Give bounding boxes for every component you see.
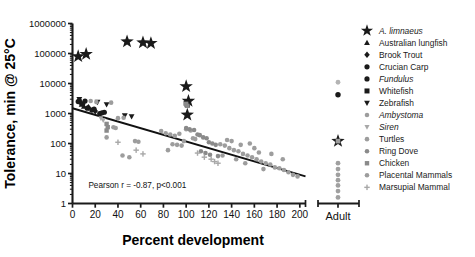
data-point: [121, 115, 126, 120]
series-placental-mammals: [218, 138, 300, 179]
data-point: [220, 153, 225, 158]
data-point: [291, 173, 296, 178]
data-point: [295, 174, 300, 179]
data-point: [120, 153, 125, 158]
figure-container: 1101001000100001000001000000020406080100…: [0, 0, 475, 257]
data-point: [259, 159, 264, 164]
legend-marker-circle-icon: [364, 76, 369, 81]
adult-data-point: [336, 139, 341, 144]
data-point: [91, 107, 96, 112]
data-point: [250, 155, 255, 160]
data-point: [254, 157, 259, 162]
adult-data-point: [336, 80, 341, 85]
data-point: [177, 132, 182, 137]
legend-label: Ring Dove: [379, 146, 418, 156]
data-point: [232, 148, 237, 153]
x-tick-label: 160: [246, 209, 263, 220]
legend-label: Whitefish: [379, 86, 414, 96]
legend-entry[interactable]: Placental Mammals: [365, 170, 452, 180]
legend-marker-star-icon: [361, 24, 373, 36]
x-tick-label: 140: [223, 209, 240, 220]
legend-label: Siren: [379, 122, 399, 132]
data-point: [257, 150, 262, 155]
legend-marker-circle-icon: [365, 137, 370, 142]
data-point: [218, 142, 223, 147]
legend-marker-circle-icon: [365, 113, 370, 118]
data-point: [136, 139, 141, 144]
data-point: [216, 154, 221, 159]
data-point: [94, 100, 99, 105]
y-tick-label: 1: [61, 198, 66, 209]
legend-entry[interactable]: Chicken: [365, 158, 410, 168]
data-point: [229, 139, 234, 144]
data-point: [202, 154, 207, 159]
data-point: [227, 146, 232, 151]
data-point: [85, 106, 90, 111]
legend-entry[interactable]: Fundulus: [364, 74, 414, 84]
legend-entry[interactable]: Siren: [364, 122, 398, 132]
data-point: [213, 143, 218, 148]
x-tick-label: 60: [135, 209, 147, 220]
x-tick-label: 0: [70, 209, 76, 220]
legend-label: Marsupial Mammal: [379, 182, 450, 192]
data-point: [182, 139, 187, 144]
data-point: [236, 149, 241, 154]
data-point: [109, 100, 114, 105]
data-point: [166, 148, 171, 153]
adult-category-label: Adult: [325, 210, 350, 222]
adult-data-point: [336, 178, 341, 183]
data-point: [241, 152, 246, 157]
legend-marker-triangle-down-icon: [364, 125, 369, 130]
legend-entry[interactable]: Ring Dove: [365, 146, 419, 156]
y-tick-label: 100000: [34, 48, 66, 59]
data-point: [163, 131, 168, 136]
data-point: [204, 136, 209, 141]
legend-entry[interactable]: Ambystoma: [365, 110, 424, 120]
legend-marker-diamond-icon: [364, 52, 370, 59]
data-point: [225, 138, 230, 143]
data-point: [129, 114, 135, 119]
data-point: [175, 143, 180, 148]
data-points-group: [71, 35, 299, 179]
data-point: [173, 134, 178, 139]
data-point: [104, 102, 110, 107]
legend-entry[interactable]: Zebrafish: [364, 98, 414, 108]
adult-data-point: [335, 92, 340, 97]
legend-label: Placental Mammals: [379, 170, 452, 180]
data-point: [282, 168, 287, 173]
legend-marker-triangle-down-icon: [364, 101, 370, 106]
data-point: [127, 155, 132, 160]
legend-entry[interactable]: Australian lungfish: [364, 38, 448, 48]
data-point: [245, 153, 250, 158]
legend-entry[interactable]: Marsupial Mammal: [364, 182, 450, 192]
data-point: [116, 116, 121, 121]
data-point: [179, 79, 192, 92]
legend: A. limnaeusAustralian lungfishBrook Trou…: [361, 24, 452, 192]
data-point: [168, 132, 173, 137]
legend-label: Crucian Carp: [379, 62, 429, 72]
y-tick-label: 10: [55, 168, 66, 179]
data-point: [159, 129, 164, 134]
legend-entry[interactable]: A. limnaeus: [361, 24, 424, 36]
legend-entry[interactable]: Crucian Carp: [364, 62, 428, 72]
legend-entry[interactable]: Whitefish: [365, 86, 414, 96]
x-tick-label: 100: [178, 209, 195, 220]
data-point: [187, 127, 192, 132]
legend-label: A. limnaeus: [378, 26, 424, 36]
adult-data-point: [336, 172, 341, 177]
data-point: [170, 142, 175, 147]
data-point: [193, 137, 198, 142]
legend-label: Fundulus: [379, 74, 414, 84]
x-axis-title: Percent development: [122, 232, 264, 248]
correlation-annotation: Pearson r = -0.87, p<0.001: [88, 181, 186, 190]
data-point: [208, 153, 213, 158]
adult-data-point: [336, 183, 341, 188]
legend-marker-square-icon: [365, 88, 370, 93]
data-point: [115, 140, 120, 145]
legend-entry[interactable]: Brook Trout: [364, 50, 423, 60]
data-point: [79, 47, 92, 60]
legend-label: Brook Trout: [379, 50, 423, 60]
data-point: [269, 152, 274, 157]
legend-entry[interactable]: Turtles: [365, 134, 405, 144]
data-point: [273, 165, 278, 170]
